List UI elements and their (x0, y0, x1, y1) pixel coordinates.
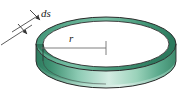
ds-dimension (1, 10, 40, 45)
ring-figure: ds r (0, 0, 182, 94)
ds-leader-lower (1, 25, 32, 45)
ring-diagram-svg: ds r (0, 0, 182, 94)
label-ds: ds (41, 7, 51, 19)
label-r: r (69, 32, 74, 44)
